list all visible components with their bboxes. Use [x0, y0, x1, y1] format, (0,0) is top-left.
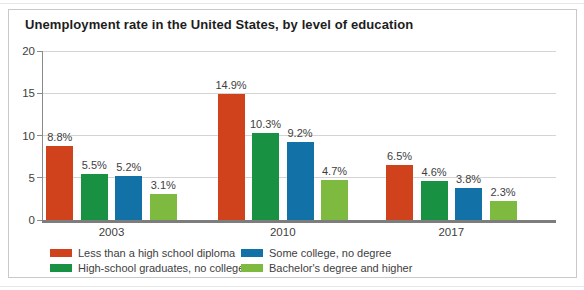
- x-category-label: 2010: [243, 226, 323, 238]
- bar: [252, 133, 279, 220]
- y-tick-label: 20: [5, 44, 35, 58]
- page: Unemployment rate in the United States, …: [0, 0, 584, 290]
- legend-label: Bachelor's degree and higher: [269, 262, 412, 274]
- legend-label: Less than a high school diploma: [78, 247, 235, 259]
- legend-swatch: [50, 249, 72, 257]
- legend-item: High-school graduates, no college: [50, 261, 244, 275]
- legend-swatch: [241, 249, 263, 257]
- bar: [218, 94, 245, 220]
- legend-item: Bachelor's degree and higher: [241, 261, 412, 275]
- bar: [150, 194, 177, 220]
- bar-value-label: 6.5%: [370, 150, 430, 162]
- y-tick-label: 0: [5, 213, 35, 227]
- bar: [321, 180, 348, 220]
- legend-item: Some college, no degree: [241, 246, 391, 260]
- plot-area: 051015208.8%14.9%6.5%5.5%10.3%4.6%5.2%9.…: [43, 51, 556, 220]
- x-category-label: 2017: [411, 226, 491, 238]
- x-axis-line: [42, 220, 556, 223]
- gridline: [43, 51, 556, 52]
- bar-value-label: 2.3%: [473, 186, 533, 198]
- y-tick-label: 15: [5, 86, 35, 100]
- legend-label: High-school graduates, no college: [78, 262, 244, 274]
- legend: Less than a high school diplomaHigh-scho…: [9, 246, 578, 278]
- legend-item: Less than a high school diploma: [50, 246, 235, 260]
- chart-card: Unemployment rate in the United States, …: [8, 9, 577, 278]
- x-category-label: 2003: [72, 226, 152, 238]
- bar-value-label: 5.2%: [99, 161, 159, 173]
- legend-label: Some college, no degree: [269, 247, 391, 259]
- bar-value-label: 14.9%: [201, 79, 261, 91]
- bar-value-label: 9.2%: [270, 127, 330, 139]
- chart-title: Unemployment rate in the United States, …: [25, 17, 413, 32]
- bar-value-label: 8.8%: [30, 131, 90, 143]
- outer-frame-bottom-line: [0, 286, 584, 287]
- y-tick-label: 5: [5, 171, 35, 185]
- bar: [287, 142, 314, 220]
- bar-value-label: 3.8%: [439, 173, 499, 185]
- legend-swatch: [50, 264, 72, 272]
- bar: [46, 146, 73, 220]
- outer-frame-top-line: [0, 3, 584, 4]
- bar-value-label: 4.7%: [305, 165, 365, 177]
- bar: [490, 201, 517, 220]
- gridline: [43, 93, 556, 94]
- legend-swatch: [241, 264, 263, 272]
- bar: [81, 174, 108, 220]
- bar-value-label: 3.1%: [133, 179, 193, 191]
- bar: [421, 181, 448, 220]
